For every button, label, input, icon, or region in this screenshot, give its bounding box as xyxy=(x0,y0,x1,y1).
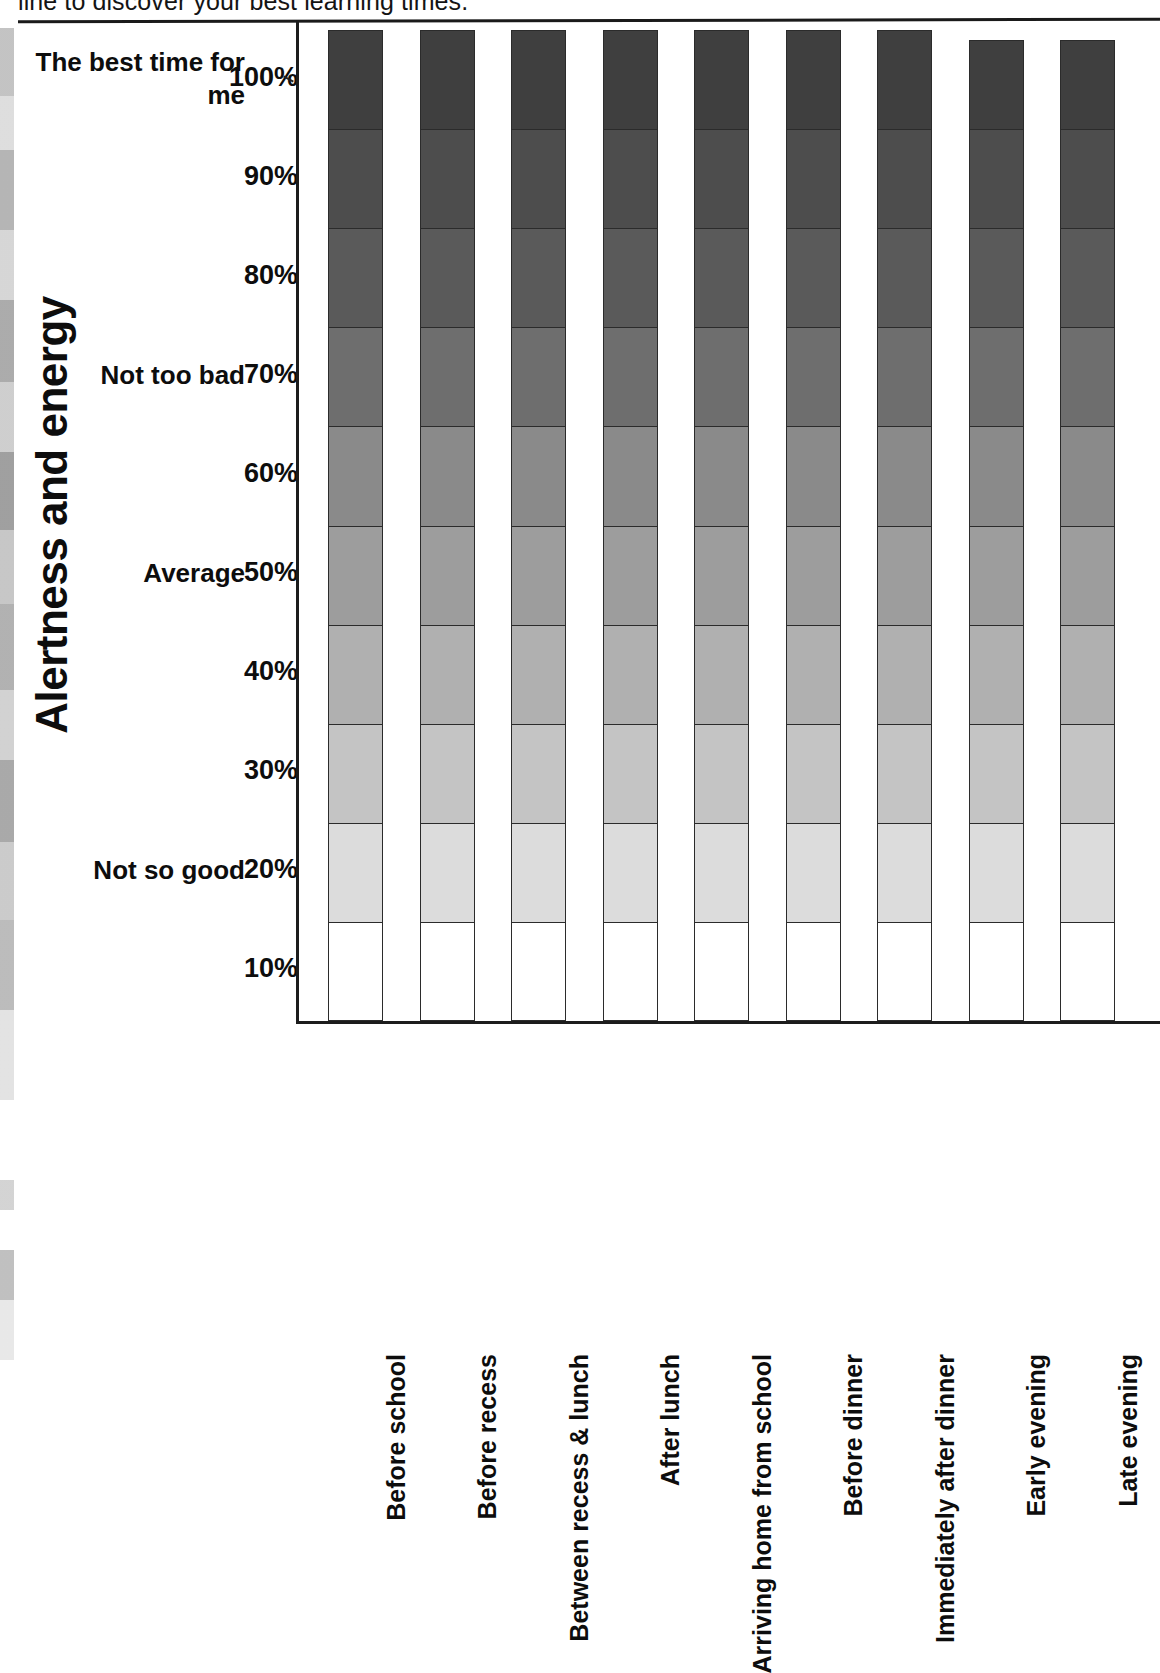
bar-segment[interactable] xyxy=(877,228,932,327)
bar-segment[interactable] xyxy=(877,625,932,724)
bar-segment[interactable] xyxy=(420,625,475,724)
bar-segment[interactable] xyxy=(603,526,658,625)
bar-segment[interactable] xyxy=(328,129,383,228)
bar-segment[interactable] xyxy=(969,625,1024,724)
bar-segment[interactable] xyxy=(786,129,841,228)
bar-segment[interactable] xyxy=(1060,327,1115,426)
bar-segment[interactable] xyxy=(786,625,841,724)
bar-segment[interactable] xyxy=(420,327,475,426)
bar-segment[interactable] xyxy=(969,228,1024,327)
bar-segment[interactable] xyxy=(969,922,1024,1021)
bar-segment[interactable] xyxy=(694,625,749,724)
stacked-bar[interactable] xyxy=(511,30,566,1021)
bar-segment[interactable] xyxy=(1060,625,1115,724)
bar-segment[interactable] xyxy=(694,922,749,1021)
bar-segment[interactable] xyxy=(511,129,566,228)
bar-segment[interactable] xyxy=(877,30,932,129)
bar-segment[interactable] xyxy=(511,228,566,327)
bar-segment[interactable] xyxy=(694,30,749,129)
stacked-bar[interactable] xyxy=(328,30,383,1021)
bar-segment[interactable] xyxy=(603,922,658,1021)
bar-segment[interactable] xyxy=(969,823,1024,922)
bar-segment[interactable] xyxy=(328,228,383,327)
bar-segment[interactable] xyxy=(1060,228,1115,327)
bar-segment[interactable] xyxy=(420,823,475,922)
bar-segment[interactable] xyxy=(328,922,383,1021)
bar-segment[interactable] xyxy=(969,526,1024,625)
bar-segment[interactable] xyxy=(603,724,658,823)
bar-segment[interactable] xyxy=(511,30,566,129)
bar-segment[interactable] xyxy=(969,327,1024,426)
bar-segment[interactable] xyxy=(877,922,932,1021)
bar-segment[interactable] xyxy=(511,426,566,525)
bar-segment[interactable] xyxy=(969,724,1024,823)
bar-segment[interactable] xyxy=(786,426,841,525)
bar-segment[interactable] xyxy=(603,30,658,129)
bar-segment[interactable] xyxy=(603,129,658,228)
bar-segment[interactable] xyxy=(603,823,658,922)
bar-segment[interactable] xyxy=(694,228,749,327)
x-axis-line xyxy=(296,1021,1160,1024)
bar-segment[interactable] xyxy=(420,724,475,823)
bar-segment[interactable] xyxy=(328,724,383,823)
bar-segment[interactable] xyxy=(1060,129,1115,228)
bar-segment[interactable] xyxy=(969,129,1024,228)
stacked-bar[interactable] xyxy=(694,30,749,1021)
bar-segment[interactable] xyxy=(328,526,383,625)
bar-segment[interactable] xyxy=(786,30,841,129)
bar-segment[interactable] xyxy=(877,327,932,426)
bar-segment[interactable] xyxy=(511,526,566,625)
bar-segment[interactable] xyxy=(1060,426,1115,525)
bar-segment[interactable] xyxy=(786,823,841,922)
bar-segment[interactable] xyxy=(1060,823,1115,922)
bar-segment[interactable] xyxy=(603,625,658,724)
bar-segment[interactable] xyxy=(603,327,658,426)
stacked-bar[interactable] xyxy=(1060,40,1115,1021)
bar-segment[interactable] xyxy=(786,526,841,625)
bar-segment[interactable] xyxy=(328,426,383,525)
bar-segment[interactable] xyxy=(511,823,566,922)
bar-segment[interactable] xyxy=(877,426,932,525)
bar-segment[interactable] xyxy=(786,922,841,1021)
bar-segment[interactable] xyxy=(877,724,932,823)
bar-segment[interactable] xyxy=(511,724,566,823)
bar-segment[interactable] xyxy=(328,625,383,724)
bar-segment[interactable] xyxy=(603,228,658,327)
bar-segment[interactable] xyxy=(694,724,749,823)
bar-segment[interactable] xyxy=(786,228,841,327)
stacked-bar[interactable] xyxy=(877,30,932,1021)
bar-segment[interactable] xyxy=(694,823,749,922)
bar-segment[interactable] xyxy=(877,526,932,625)
bar-segment[interactable] xyxy=(969,426,1024,525)
bar-segment[interactable] xyxy=(420,922,475,1021)
bar-segment[interactable] xyxy=(786,327,841,426)
stacked-bar[interactable] xyxy=(603,30,658,1021)
bar-segment[interactable] xyxy=(420,426,475,525)
stacked-bar[interactable] xyxy=(969,40,1024,1021)
bar-segment[interactable] xyxy=(511,327,566,426)
bar-segment[interactable] xyxy=(969,40,1024,129)
bar-segment[interactable] xyxy=(420,526,475,625)
bar-segment[interactable] xyxy=(420,129,475,228)
bar-segment[interactable] xyxy=(420,30,475,129)
bar-segment[interactable] xyxy=(694,426,749,525)
bar-segment[interactable] xyxy=(694,526,749,625)
bar-segment[interactable] xyxy=(1060,526,1115,625)
bar-segment[interactable] xyxy=(877,129,932,228)
bar-segment[interactable] xyxy=(420,228,475,327)
bar-segment[interactable] xyxy=(328,327,383,426)
bar-segment[interactable] xyxy=(786,724,841,823)
bar-segment[interactable] xyxy=(603,426,658,525)
bar-segment[interactable] xyxy=(511,625,566,724)
bar-segment[interactable] xyxy=(1060,724,1115,823)
stacked-bar[interactable] xyxy=(786,30,841,1021)
bar-segment[interactable] xyxy=(1060,40,1115,129)
bar-segment[interactable] xyxy=(328,30,383,129)
bar-segment[interactable] xyxy=(877,823,932,922)
bar-segment[interactable] xyxy=(694,327,749,426)
bar-segment[interactable] xyxy=(1060,922,1115,1021)
stacked-bar[interactable] xyxy=(420,30,475,1021)
bar-segment[interactable] xyxy=(694,129,749,228)
bar-segment[interactable] xyxy=(328,823,383,922)
bar-segment[interactable] xyxy=(511,922,566,1021)
